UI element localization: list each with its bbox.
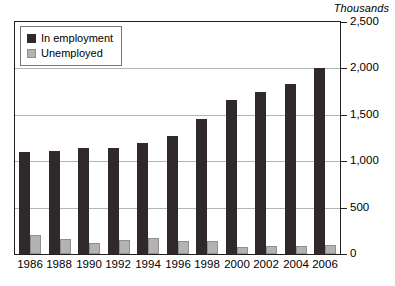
y-axis-tick [341, 68, 347, 69]
units-caption: Thousands [334, 2, 389, 14]
bar-in-employment [255, 92, 266, 254]
legend-item-label: Unemployed [41, 48, 103, 59]
bar-chart-figure: Thousands 05001,0001,5002,0002,500 19861… [0, 0, 395, 286]
y-axis-tick-label: 2,000 [350, 62, 379, 74]
bar-unemployed [119, 240, 130, 254]
bar-in-employment [285, 84, 296, 254]
y-axis-tick [341, 161, 347, 162]
chart-legend: In employmentUnemployed [20, 26, 122, 66]
bar-unemployed [266, 246, 277, 254]
bar-unemployed [237, 247, 248, 254]
bar-unemployed [178, 241, 189, 254]
bar-group [314, 22, 338, 254]
bar-in-employment [196, 119, 207, 254]
legend-swatch-dark [27, 34, 36, 43]
bar-in-employment [137, 143, 148, 254]
bar-in-employment [167, 136, 178, 254]
bar-unemployed [60, 239, 71, 254]
x-axis-tick-label: 1994 [135, 259, 161, 271]
bar-in-employment [19, 152, 30, 254]
bar-unemployed [325, 245, 336, 254]
bar-group [226, 22, 250, 254]
y-axis-tick-label: 1,500 [350, 109, 379, 121]
x-axis-tick-label: 1996 [165, 259, 191, 271]
y-axis-tick [341, 22, 347, 23]
bar-in-employment [314, 68, 325, 254]
bar-group [196, 22, 220, 254]
bar-unemployed [207, 241, 218, 254]
bar-unemployed [30, 235, 41, 254]
legend-item: Unemployed [27, 46, 113, 61]
bar-group [285, 22, 309, 254]
bar-in-employment [108, 148, 119, 254]
bar-in-employment [49, 151, 60, 254]
legend-item-label: In employment [41, 33, 113, 44]
x-axis-tick-label: 1992 [105, 259, 131, 271]
y-axis-tick-label: 0 [350, 248, 356, 260]
legend-swatch-light [27, 49, 36, 58]
bar-group [137, 22, 161, 254]
bar-unemployed [296, 246, 307, 254]
y-axis-tick-label: 1,000 [350, 155, 379, 167]
y-axis-tick [341, 115, 347, 116]
x-axis-tick-label: 2004 [283, 259, 309, 271]
bar-in-employment [78, 148, 89, 254]
bar-group [255, 22, 279, 254]
bar-in-employment [226, 100, 237, 254]
y-axis-tick [341, 254, 347, 255]
x-axis-tick-label: 1998 [194, 259, 220, 271]
bar-unemployed [148, 238, 159, 254]
x-axis-tick-label: 1986 [17, 259, 43, 271]
x-axis-tick-label: 2006 [312, 259, 338, 271]
x-axis-tick-label: 2000 [224, 259, 250, 271]
bar-group [167, 22, 191, 254]
y-axis-tick-label: 2,500 [350, 16, 379, 28]
x-axis-tick-label: 1990 [76, 259, 102, 271]
bar-unemployed [89, 243, 100, 254]
y-axis-tick [341, 208, 347, 209]
legend-item: In employment [27, 31, 113, 46]
y-axis-tick-label: 500 [350, 202, 369, 214]
x-axis-tick-label: 1988 [46, 259, 72, 271]
x-axis-tick-label: 2002 [253, 259, 279, 271]
